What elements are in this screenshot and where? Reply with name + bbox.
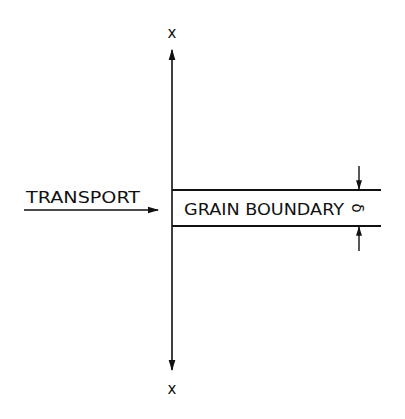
grain-boundary-diagram: x x TRANSPORT GRAIN BOUNDARY δ <box>0 0 405 419</box>
axis-label-bottom: x <box>168 380 177 398</box>
boundary-label: GRAIN BOUNDARY <box>184 200 344 219</box>
axis-label-top: x <box>168 24 177 42</box>
thickness-symbol: δ <box>348 203 366 212</box>
transport-label: TRANSPORT <box>25 188 140 207</box>
